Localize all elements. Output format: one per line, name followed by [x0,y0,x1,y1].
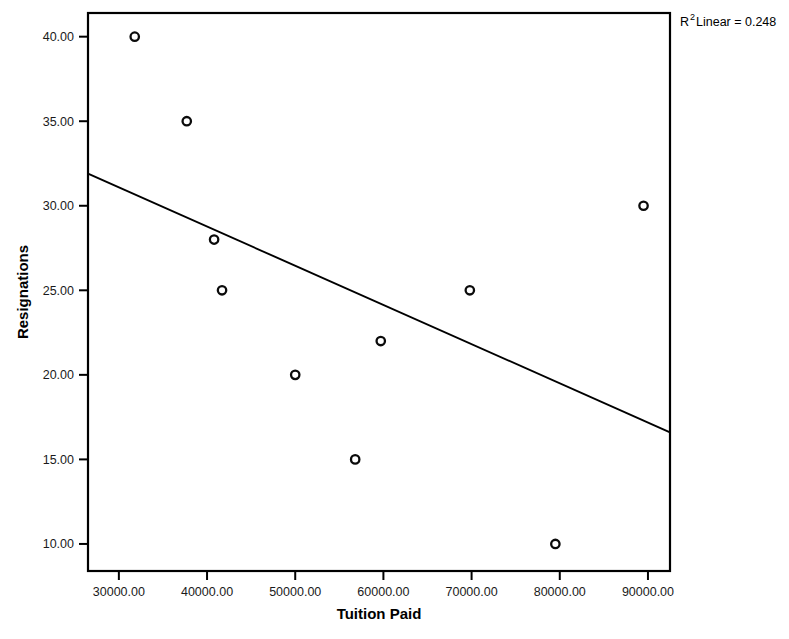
y-axis-title: Resignations [14,245,31,339]
data-point-marker [218,286,226,294]
y-tick-label: 40.00 [43,30,74,44]
scatter-plot-figure: 10.0015.0020.0025.0030.0035.0040.00 3000… [0,0,789,639]
y-tick-label: 15.00 [43,453,74,467]
r-squared-symbol: R [680,15,689,29]
r-squared-superscript: 2 [690,12,695,22]
y-tick-label: 10.00 [43,537,74,551]
data-point-marker [131,32,139,40]
x-tick-label: 60000.00 [357,585,409,599]
y-tick-label: 20.00 [43,368,74,382]
chart-canvas: 10.0015.0020.0025.0030.0035.0040.00 3000… [0,0,789,639]
x-axis-title: Tuition Paid [337,605,422,622]
y-tick-label: 25.00 [43,284,74,298]
data-point-marker [291,371,299,379]
x-tick-label: 80000.00 [534,585,586,599]
data-point-marker [183,117,191,125]
x-tick-label: 50000.00 [269,585,321,599]
y-tick-label: 30.00 [43,199,74,213]
x-tick-label: 40000.00 [181,585,233,599]
x-tick-label: 30000.00 [93,585,145,599]
data-point-marker [466,286,474,294]
data-point-marker [551,540,559,548]
r-squared-text: Linear = 0.248 [696,15,776,29]
y-tick-label: 35.00 [43,115,74,129]
data-point-marker [639,202,647,210]
data-point-marker [351,455,359,463]
x-tick-label: 90000.00 [622,585,674,599]
data-point-marker [210,235,218,243]
data-point-marker [377,337,385,345]
x-tick-label: 70000.00 [446,585,498,599]
